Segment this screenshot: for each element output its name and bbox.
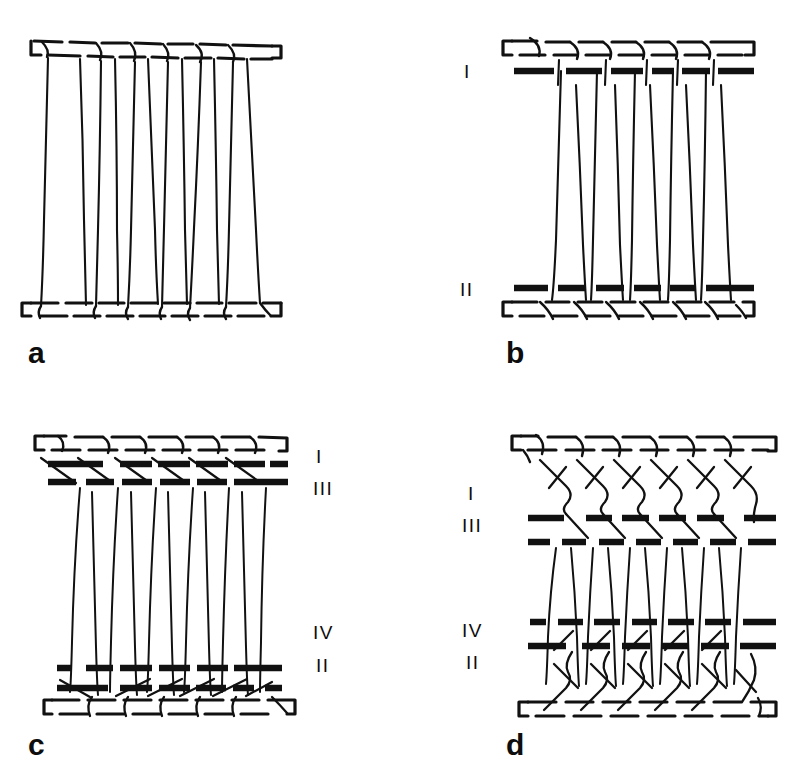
panel-d: d I III IV II: [406, 392, 812, 784]
panel-d-drawing: [406, 392, 812, 784]
bottom-rail-a: [22, 303, 281, 316]
panel-b-drawing: [406, 0, 812, 392]
bottom-rail-c: [44, 700, 295, 714]
panel-c-drawing: [0, 392, 406, 784]
row-label-d-III: III: [462, 516, 482, 535]
row-label-c-I: I: [316, 447, 323, 466]
row-label-b-II: II: [460, 280, 474, 299]
yarn-legs-b: [552, 71, 731, 300]
row-label-d-II: II: [466, 653, 480, 672]
top-rail-c: [35, 436, 287, 451]
yarn-legs-c: [70, 488, 266, 695]
figure-root: a: [0, 0, 812, 784]
panel-letter-c: c: [28, 730, 45, 760]
row-label-c-III: III: [313, 479, 333, 498]
panel-b: b I II: [406, 0, 812, 392]
panel-a: a: [0, 0, 406, 392]
panel-a-drawing: [0, 0, 406, 392]
top-rail-d: [512, 436, 776, 451]
row-label-c-II: II: [316, 656, 330, 675]
row-label-c-IV: IV: [313, 623, 334, 642]
bottom-hooks-d: [758, 698, 761, 716]
crossover-strands-d: [540, 460, 757, 522]
panel-c: c I III IV II: [0, 392, 406, 784]
top-rail-a: [31, 41, 281, 59]
panel-letter-b: b: [506, 338, 524, 368]
row-label-d-IV: IV: [462, 621, 483, 640]
panel-letter-d: d: [506, 730, 524, 760]
row-label-b-I: I: [464, 62, 471, 81]
yarn-legs-a: [41, 58, 260, 308]
yarn-legs-d: [546, 548, 741, 686]
bottom-rail-d: [519, 702, 776, 716]
row-label-d-I: I: [468, 484, 475, 503]
panel-letter-a: a: [28, 338, 45, 368]
